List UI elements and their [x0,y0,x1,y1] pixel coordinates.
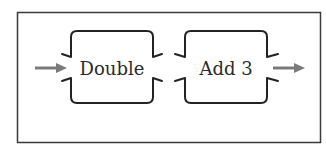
machine-label: Add 3 [198,58,252,79]
machine-label: Double [80,58,145,79]
diagram-frame [18,13,321,143]
input-arrow-icon [35,63,67,73]
function-machine-diagram: Double Add 3 [0,0,326,148]
machine-double: Double [62,31,162,103]
machine-add-3: Add 3 [175,31,278,103]
output-arrow-icon [273,63,305,73]
